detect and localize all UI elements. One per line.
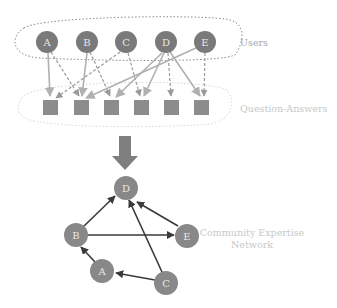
qa-box-6[interactable] [194,100,209,115]
network-node-E[interactable]: E [175,224,199,248]
edge-D-q4 [144,53,164,96]
net-edge-E-D [137,202,178,226]
user-node-label: D [162,37,170,48]
net-edge-B-D [83,196,115,227]
user-node-C[interactable]: C [115,31,137,53]
net-edge-A-B [81,247,95,262]
qa-nodes [43,100,209,115]
net-edge-C-A [116,273,155,280]
network-node-label: C [162,278,170,289]
user-node-label: A [42,37,51,48]
edge-B-q3 [90,52,110,96]
qa-box-2[interactable] [74,100,89,115]
user-node-D[interactable]: D [155,31,177,53]
edge-D-q3 [116,53,162,97]
user-qa-edges [48,48,205,98]
user-node-label: E [201,37,208,48]
transform-arrow-icon [112,136,138,170]
network-label-line2: Network [231,239,273,250]
network-node-label: A [97,266,106,277]
net-edge-C-D [129,200,162,272]
network-node-label: E [183,231,190,242]
qa-box-3[interactable] [104,100,119,115]
user-node-label: B [83,37,90,48]
network-label-line1: Community Expertise [200,227,305,238]
edge-A-q2 [51,52,79,96]
user-node-A[interactable]: A [36,31,58,53]
qa-box-4[interactable] [134,100,149,115]
network-node-label: D [122,183,130,194]
edge-E-q2 [86,48,196,98]
edge-A-q1 [48,53,50,96]
user-node-label: C [122,37,130,48]
users-label: Users [240,37,268,48]
qa-box-1[interactable] [43,100,58,115]
diagram-canvas: A B C D E Users Question-Answers [0,0,337,308]
network-node-D[interactable]: D [114,176,138,200]
user-node-E[interactable]: E [194,31,216,53]
qa-box-5[interactable] [164,100,179,115]
network-node-label: B [72,230,79,241]
user-node-B[interactable]: B [76,31,98,53]
qa-label: Question-Answers [240,103,327,114]
user-nodes: A B C D E [36,31,216,53]
network-node-B[interactable]: B [64,223,88,247]
network-node-A[interactable]: A [90,259,114,283]
network-node-C[interactable]: C [154,271,178,295]
